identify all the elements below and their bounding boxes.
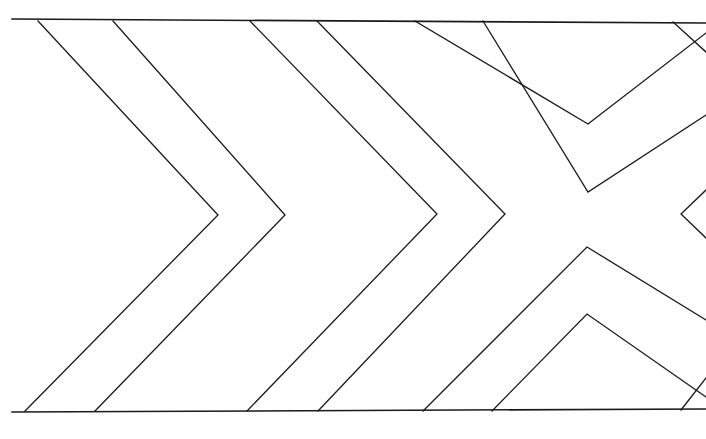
figure-canvas: Nested chevron and crossed-diagonal line… (0, 0, 706, 439)
line-art-diagram: Nested chevron and crossed-diagonal line… (0, 0, 706, 439)
figure-background (0, 0, 706, 439)
